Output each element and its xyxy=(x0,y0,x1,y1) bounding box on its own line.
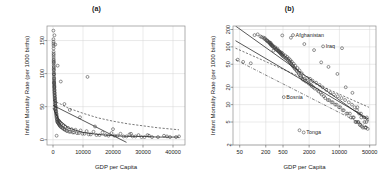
data-layer xyxy=(236,26,370,132)
x-tick-label: 500 xyxy=(278,149,287,155)
data-point xyxy=(256,33,259,36)
annotation-marker xyxy=(302,131,305,134)
data-point xyxy=(298,129,301,132)
data-point xyxy=(351,91,354,94)
annotation-label-tonga: Tonga xyxy=(306,129,321,135)
annotation-label-bosnia: Bosnia xyxy=(286,94,302,100)
data-point xyxy=(253,34,256,37)
data-point xyxy=(336,95,339,98)
data-point xyxy=(347,101,350,104)
plot-frame xyxy=(233,26,376,145)
annotation-marker xyxy=(292,34,295,37)
y-tick-label: 200 xyxy=(226,25,232,34)
panel-b: (b) 502005002000100005000025102050100200… xyxy=(193,0,386,188)
annotation-marker xyxy=(322,45,325,48)
x-tick-label: 50 xyxy=(237,149,243,155)
data-point xyxy=(341,47,344,50)
annotation-marker xyxy=(282,96,285,99)
y-tick-label: 5 xyxy=(226,120,232,123)
data-point xyxy=(313,49,316,52)
data-point xyxy=(289,36,292,39)
y-tick-label: 50 xyxy=(226,61,232,67)
x-tick-label: 2000 xyxy=(303,149,315,155)
data-point xyxy=(336,72,339,75)
y-tick-label: 2 xyxy=(226,143,232,146)
y-tick-label: 20 xyxy=(226,84,232,90)
fit-line-ols-log-log xyxy=(236,26,369,121)
data-point xyxy=(344,99,347,102)
annotation-label-iraq: Iraq xyxy=(326,43,335,49)
y-tick-label: 10 xyxy=(226,102,232,108)
x-axis-title: GDP per Capita xyxy=(283,164,326,170)
data-point xyxy=(272,49,275,52)
x-tick-label: 10000 xyxy=(332,149,348,155)
y-axis-title: Infant Mortality Rate (per 1000 births) xyxy=(210,36,216,135)
annotation-label-afghanistan: Afghanistan xyxy=(296,32,324,38)
data-point xyxy=(320,61,323,64)
x-tick-label: 50000 xyxy=(362,149,378,155)
x-tick-label: 200 xyxy=(261,149,270,155)
figure-scatter-infant-mortality-gdp: (a) 010000200003000040000050100150GDP pe… xyxy=(0,0,386,188)
y-tick-label: 100 xyxy=(226,42,232,51)
data-point xyxy=(340,97,343,100)
data-point xyxy=(303,43,306,46)
data-point xyxy=(327,65,330,68)
panel-b-plot: 502005002000100005000025102050100200GDP … xyxy=(0,0,386,188)
fit-line-robust-fit xyxy=(236,41,369,119)
